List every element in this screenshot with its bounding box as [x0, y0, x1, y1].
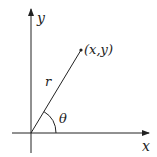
polar-coordinate-diagram: y x (x,y) r θ: [0, 0, 157, 157]
y-axis-label: y: [36, 10, 46, 26]
angle-label: θ: [59, 111, 67, 126]
radius-line: [31, 50, 81, 133]
radius-label: r: [45, 74, 52, 89]
x-axis-label: x: [142, 138, 150, 154]
point-dot: [79, 48, 82, 51]
point-label: (x,y): [84, 42, 113, 57]
angle-arc: [44, 112, 56, 133]
